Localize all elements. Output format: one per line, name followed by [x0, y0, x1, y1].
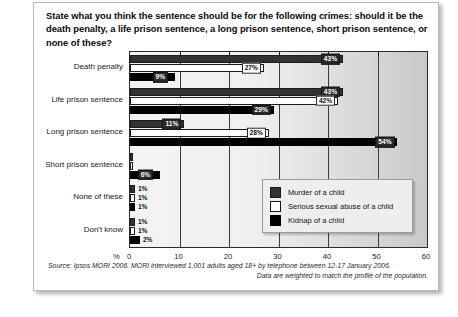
bar[interactable]	[130, 153, 133, 161]
axis-tick-label: 60	[422, 252, 430, 261]
bar-value-label: 1%	[135, 203, 150, 212]
bar[interactable]	[130, 138, 397, 146]
source-note: Source: Ipsos MORI 2006. MORI interviewe…	[48, 261, 428, 280]
category-label: Don't know	[3, 225, 123, 234]
bar-value-label: 2%	[140, 235, 155, 244]
legend-label: Murder of a child	[288, 188, 345, 197]
bar-value-label: 9%	[153, 72, 169, 83]
legend-item: Murder of a child	[270, 185, 406, 199]
legend-label: Serious sexual abuse of a child	[288, 202, 393, 211]
axis-tick-mark	[427, 52, 428, 57]
bar-value-label: 6%	[138, 169, 154, 180]
bar-value-label: 1%	[135, 194, 150, 203]
bar-value-label: 28%	[247, 128, 266, 139]
bar[interactable]	[130, 88, 343, 96]
category-label: Short prison sentence	[3, 160, 123, 169]
legend-swatch-murder-icon	[270, 187, 281, 198]
bar-row: 27%	[130, 64, 427, 72]
axis-tick-label: 40	[323, 252, 331, 261]
legend-item: Serious sexual abuse of a child	[270, 199, 406, 213]
bar-row: 43%	[130, 55, 427, 63]
bar[interactable]	[130, 162, 133, 170]
chart-card: State what you think the sentence should…	[33, 2, 439, 291]
chart-legend: Murder of a child Serious sexual abuse o…	[262, 179, 413, 233]
legend-swatch-abuse-icon	[270, 201, 281, 212]
bar-row: 43%	[130, 88, 427, 96]
bar-value-label: 43%	[321, 54, 340, 65]
bar[interactable]	[130, 236, 140, 244]
bar-value-label: 42%	[316, 95, 335, 106]
question-text: State what you think the sentence should…	[46, 9, 430, 49]
bar-row: 29%	[130, 106, 427, 114]
bar[interactable]	[130, 97, 338, 105]
chart: 43%27%9%43%42%29%11%28%54%6%1%1%1%1%1%2%…	[46, 51, 428, 256]
gridline	[427, 52, 428, 247]
bar-value-label: 11%	[162, 119, 181, 130]
axis-tick-label: 50	[372, 252, 380, 261]
bar-row: 11%	[130, 120, 427, 128]
source-line-1: Source: Ipsos MORI 2006. MORI interviewe…	[48, 262, 391, 269]
bar-value-label: 1%	[135, 185, 150, 194]
category-label: Long prison sentence	[3, 127, 123, 136]
bar-value-label: 29%	[252, 104, 271, 115]
axis-tick-label: 20	[224, 252, 232, 261]
bar-value-label: 1%	[135, 217, 150, 226]
category-label: None of these	[3, 192, 123, 201]
bar-value-label: 27%	[242, 63, 261, 74]
bar-row	[130, 153, 427, 161]
axis-tick-label: 30	[273, 252, 281, 261]
source-line-2: Data are weighted to match the profile o…	[48, 271, 428, 281]
axis-tick-label: 10	[174, 252, 182, 261]
legend-item: Kidnap of a child	[270, 213, 406, 227]
bar-row	[130, 162, 427, 170]
bar-row: 42%	[130, 97, 427, 105]
axis-unit-label: %	[113, 252, 120, 261]
bar-row: 2%	[130, 236, 427, 244]
bar-row: 6%	[130, 171, 427, 179]
bar-value-label: 1%	[135, 226, 150, 235]
category-label: Life prison sentence	[3, 95, 123, 104]
bar-row: 54%	[130, 138, 427, 146]
legend-label: Kidnap of a child	[288, 216, 344, 225]
legend-swatch-kidnap-icon	[270, 215, 281, 226]
bar-value-label: 54%	[375, 137, 394, 148]
axis-tick-label: 0	[127, 252, 131, 261]
category-label: Death penalty	[3, 62, 123, 71]
page-background: State what you think the sentence should…	[0, 0, 458, 317]
bar-row: 9%	[130, 73, 427, 81]
bar[interactable]	[130, 55, 343, 63]
